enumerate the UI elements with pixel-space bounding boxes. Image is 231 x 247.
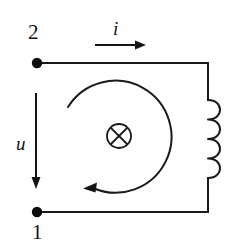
- terminal-node-1-dot: [32, 207, 42, 217]
- current-label-i: i: [113, 19, 118, 38]
- inductor-coil: [208, 100, 220, 178]
- terminal-label-1: 1: [32, 222, 43, 243]
- voltage-label-u: u: [16, 134, 26, 153]
- terminal-label-2: 2: [28, 22, 39, 43]
- terminal-node-2-dot: [32, 58, 42, 68]
- current-arrow-head: [135, 41, 146, 50]
- voltage-arrow-head: [32, 177, 41, 189]
- circuit-diagram-figure: 2 1 i u: [0, 0, 231, 247]
- flux-loop-arrow-head: [83, 183, 97, 193]
- wire-right-lower-and-bottom: [37, 178, 208, 212]
